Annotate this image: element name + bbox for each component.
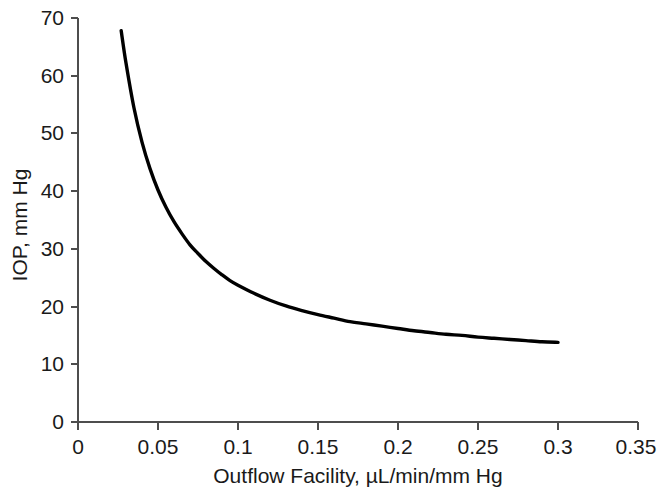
x-tick-label-015: 0.15 [298, 435, 339, 458]
x-tick-label-01: 0.1 [223, 435, 252, 458]
y-tick-label-40: 40 [41, 179, 64, 202]
x-tick-label-0: 0 [72, 435, 84, 458]
y-tick-label-30: 30 [41, 237, 64, 260]
chart-figure: 0 10 20 30 40 50 60 70 0 0.05 0.1 0.15 0 [0, 0, 661, 490]
y-tick-label-10: 10 [41, 352, 64, 375]
x-tick-label-035: 0.35 [616, 435, 657, 458]
x-axis-tick-labels: 0 0.05 0.1 0.15 0.2 0.25 0.3 0.35 [72, 435, 656, 458]
y-tick-label-50: 50 [41, 121, 64, 144]
x-tick-label-02: 0.2 [383, 435, 412, 458]
x-tick-label-005: 0.05 [138, 435, 179, 458]
y-axis-title: IOP, mm Hg [8, 169, 31, 282]
x-tick-label-03: 0.3 [543, 435, 572, 458]
y-axis-tick-labels: 0 10 20 30 40 50 60 70 [41, 6, 64, 433]
y-tick-label-0: 0 [52, 410, 64, 433]
x-axis-ticks [78, 422, 638, 430]
chart-svg: 0 10 20 30 40 50 60 70 0 0.05 0.1 0.15 0 [0, 0, 661, 490]
y-axis-ticks [71, 18, 78, 422]
x-tick-label-025: 0.25 [458, 435, 499, 458]
y-tick-label-70: 70 [41, 6, 64, 29]
y-tick-label-20: 20 [41, 295, 64, 318]
data-curve-iop [121, 31, 558, 343]
y-tick-label-60: 60 [41, 64, 64, 87]
x-axis-title: Outflow Facility, µL/min/mm Hg [213, 464, 502, 487]
